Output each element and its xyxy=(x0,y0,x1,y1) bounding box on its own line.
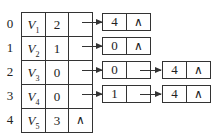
vertex-table: V1 2 V2 1 V3 0 V4 0 V5 3 ∧ xyxy=(21,12,93,133)
arrow-icon xyxy=(82,46,102,47)
null-pointer-icon: ∧ xyxy=(187,86,210,102)
vertex-name: V5 xyxy=(22,109,46,132)
vertex-row: V5 3 ∧ xyxy=(22,109,92,133)
in-degree: 1 xyxy=(46,37,69,60)
first-arc-pointer xyxy=(69,37,92,60)
in-degree: 0 xyxy=(46,85,69,108)
adjvex: 0 xyxy=(103,38,127,54)
vertex-row: V1 2 xyxy=(22,13,92,37)
null-pointer-icon: ∧ xyxy=(127,38,150,54)
adjvex: 4 xyxy=(163,62,187,78)
first-arc-pointer xyxy=(69,85,92,108)
vertex-name: V3 xyxy=(22,61,46,84)
arc-node: 4 ∧ xyxy=(162,85,211,103)
in-degree: 3 xyxy=(46,109,69,132)
vertex-name: V2 xyxy=(22,37,46,60)
in-degree: 2 xyxy=(46,13,69,36)
vertex-index-0: 0 xyxy=(4,12,16,36)
adjvex: 1 xyxy=(103,86,127,102)
first-arc-pointer xyxy=(69,61,92,84)
arrow-icon xyxy=(82,94,102,95)
vertex-index-3: 3 xyxy=(4,84,16,108)
vertex-name: V1 xyxy=(22,13,46,36)
adjvex: 0 xyxy=(103,62,127,78)
arrow-icon xyxy=(82,70,102,71)
vertex-name: V4 xyxy=(22,85,46,108)
arc-node: 4 ∧ xyxy=(102,13,151,31)
vertex-index-4: 4 xyxy=(4,108,16,132)
arrow-icon xyxy=(140,94,161,95)
adjvex: 4 xyxy=(103,14,127,30)
first-arc-pointer xyxy=(69,13,92,36)
null-pointer-icon: ∧ xyxy=(69,109,92,132)
vertex-row: V3 0 xyxy=(22,61,92,85)
null-pointer-icon: ∧ xyxy=(187,62,210,78)
arc-node: 0 ∧ xyxy=(102,37,151,55)
adjvex: 4 xyxy=(163,86,187,102)
arc-node: 4 ∧ xyxy=(162,61,211,79)
vertex-index-1: 1 xyxy=(4,36,16,60)
vertex-row: V4 0 xyxy=(22,85,92,109)
arrow-icon xyxy=(140,70,161,71)
vertex-row: V2 1 xyxy=(22,37,92,61)
null-pointer-icon: ∧ xyxy=(127,14,150,30)
in-degree: 0 xyxy=(46,61,69,84)
vertex-index-2: 2 xyxy=(4,60,16,84)
arrow-icon xyxy=(82,22,102,23)
